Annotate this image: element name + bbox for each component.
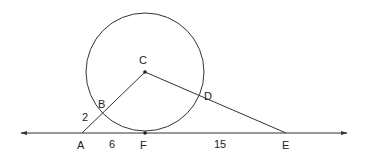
label-d: D	[204, 90, 212, 102]
length-af: 6	[109, 138, 115, 150]
segment-ac	[82, 72, 145, 133]
label-f: F	[140, 139, 147, 151]
point-f-dot	[143, 131, 147, 135]
point-c-dot	[143, 70, 147, 74]
length-ab: 2	[82, 111, 88, 123]
label-b: B	[98, 98, 105, 110]
label-e: E	[282, 139, 289, 151]
segment-ec	[145, 72, 286, 133]
label-c: C	[139, 54, 147, 66]
geometry-diagram: C B D A F E 2 6 15	[0, 0, 370, 163]
length-fe: 15	[214, 138, 226, 150]
label-a: A	[77, 139, 85, 151]
